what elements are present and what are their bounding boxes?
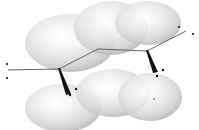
orbital-lobes [25, 1, 182, 130]
dot-right-end-top [178, 26, 180, 28]
dot-wedge-right-dot-1 [162, 69, 164, 71]
dot-right-end-bottom [192, 33, 194, 35]
wedge-right [146, 50, 158, 73]
dot-left-end-bottom [6, 77, 8, 79]
dot-left-end-top [6, 63, 8, 65]
molecular-diagram: Molecular orbital lobes with bond skelet… [0, 0, 199, 130]
dot-wedge-left-dot-2 [69, 94, 71, 96]
dot-wedge-left-dot-1 [75, 88, 77, 90]
diagram-canvas [0, 0, 199, 130]
dot-stray-dot [153, 98, 154, 99]
dot-wedge-right-dot-2 [156, 75, 158, 77]
lobe-bottom-right [118, 73, 182, 121]
